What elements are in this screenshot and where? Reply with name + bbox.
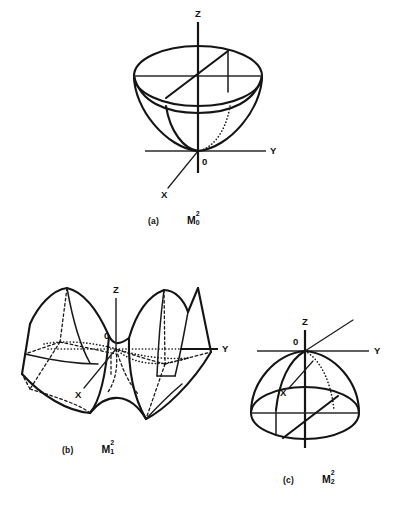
figure-c-tag: (c): [283, 475, 294, 485]
figure-c-caption: (c) M 2 2: [283, 473, 331, 485]
figure-b-tag: (b): [62, 445, 73, 455]
left-wing-outer-edge: [22, 324, 30, 374]
figure-c-symbol-superscript: 2: [331, 469, 335, 476]
figure-a-symbol: M 2 0: [187, 214, 196, 226]
figure-b-saddle: Z Y X 0: [12, 276, 232, 436]
right-wing-inner-ridge: [129, 290, 164, 338]
left-wing-hidden-vertical: [60, 288, 67, 342]
x-axis-line: [305, 320, 353, 351]
y-axis-label: Y: [374, 345, 381, 356]
paraboloid-left-branch: [251, 351, 305, 413]
right-wing-top-edge: [188, 288, 198, 312]
figure-b-symbol-base: M: [101, 443, 110, 455]
x-axis-label: X: [280, 387, 287, 398]
left-wing-top-ridge: [67, 288, 109, 336]
x-axis-leader: [289, 361, 313, 388]
saddle-back-throat: [109, 336, 129, 343]
figure-c-symbol-base: M: [322, 473, 331, 485]
figure-a-symbol-subscript: 0: [196, 219, 200, 226]
figure-a-svg: Z Y X 0: [118, 8, 288, 203]
figure-c-symbol: M 2 2: [322, 473, 331, 485]
figure-c-svg: Z Y X 0: [243, 316, 393, 461]
figure-b-caption: (b) M 2 1: [62, 443, 110, 455]
paraboloid-right-branch: [305, 351, 359, 413]
x-axis-label: X: [161, 189, 168, 200]
right-wing-outer-edge: [198, 288, 211, 352]
x-axis-line: [168, 151, 198, 188]
z-axis-label: Z: [302, 316, 308, 327]
figure-a-paraboloid-upward: Z Y X 0: [118, 8, 288, 203]
right-wing-top-curve: [164, 290, 188, 312]
figure-b-symbol: M 2 1: [101, 443, 110, 455]
left-wing-top-back-edge: [30, 288, 67, 324]
figure-c-symbol-subscript: 2: [331, 478, 335, 485]
z-axis-label: Z: [195, 8, 201, 19]
figure-b-symbol-superscript: 2: [110, 439, 114, 446]
origin-label: 0: [104, 330, 109, 341]
y-axis-label: Y: [222, 343, 229, 354]
figure-a-symbol-base: M: [187, 214, 196, 226]
origin-label: 0: [293, 336, 298, 347]
right-wing-hidden-diagonal: [146, 364, 165, 419]
left-wing-hidden-rule-a: [25, 342, 60, 354]
horizon-curve-left-hidden: [44, 342, 116, 349]
rim-oblique-chord: [283, 396, 338, 438]
figure-a-symbol-superscript: 2: [196, 210, 200, 217]
saddle-hidden-throat-left: [108, 349, 117, 392]
figure-b-symbol-subscript: 1: [110, 448, 114, 455]
figure-b-svg: Z Y X 0: [12, 276, 232, 436]
left-wing-center-fall: [90, 336, 109, 413]
origin-label: 0: [202, 156, 207, 167]
z-axis-label: Z: [113, 284, 119, 295]
right-wing-secondary-crease: [175, 312, 188, 376]
y-axis-label: Y: [270, 145, 277, 156]
figure-c-paraboloid-downward: Z Y X 0: [243, 316, 393, 461]
right-wing-bottom-rule: [146, 384, 182, 419]
x-axis-label: X: [75, 389, 82, 400]
right-wing-hidden-vertical: [164, 290, 165, 364]
figure-a-caption: (a) M 2 0: [148, 214, 196, 226]
figure-a-tag: (a): [148, 216, 159, 226]
